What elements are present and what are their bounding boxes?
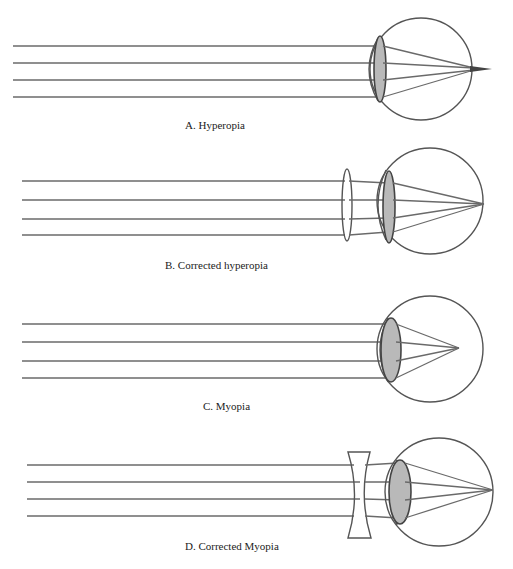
- eye-lens: [381, 318, 401, 382]
- caption-d: D. Corrected Myopia: [185, 540, 279, 552]
- vision-correction-diagram: [0, 0, 513, 569]
- panel-a-hyperopia: [13, 18, 492, 120]
- incoming-rays: [22, 324, 385, 378]
- panel-b-corrected-hyperopia: [22, 148, 484, 254]
- caption-b: B. Corrected hyperopia: [165, 259, 268, 271]
- incoming-rays: [13, 46, 378, 97]
- refracted-rays: [383, 46, 474, 97]
- refracted-rays: [405, 463, 493, 518]
- panel-d-corrected-myopia: [27, 438, 493, 546]
- convex-corrective-lens: [342, 169, 352, 241]
- eye-lens: [389, 460, 411, 524]
- incoming-rays: [22, 181, 345, 235]
- caption-a: A. Hyperopia: [185, 119, 245, 131]
- focal-point-behind-retina: [470, 66, 492, 72]
- panel-c-myopia: [22, 296, 483, 402]
- caption-c: C. Myopia: [203, 400, 250, 412]
- incoming-rays: [27, 465, 360, 516]
- refracted-rays: [393, 183, 484, 232]
- refracted-rays: [396, 324, 459, 378]
- converging-rays: [349, 181, 388, 235]
